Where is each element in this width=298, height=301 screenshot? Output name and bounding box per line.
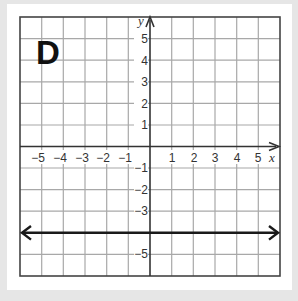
y-tick: 2 (141, 97, 148, 111)
panel-label: D (36, 34, 60, 71)
x-axis-label: x (268, 150, 275, 165)
x-tick: −2 (96, 151, 110, 165)
x-tick: 3 (212, 151, 219, 165)
y-tick: −3 (134, 204, 148, 218)
x-tick: 4 (234, 151, 241, 165)
y-tick: 1 (141, 118, 148, 132)
y-tick: 3 (141, 75, 148, 89)
x-tick: 1 (169, 151, 176, 165)
y-tick: −5 (134, 247, 148, 261)
x-tick: −5 (31, 151, 45, 165)
x-tick: −1 (118, 151, 132, 165)
x-tick: 5 (255, 151, 262, 165)
x-tick: 2 (191, 151, 198, 165)
coordinate-plane: D y x −5 −4 −3 −2 −1 1 2 3 4 5 5 4 3 2 1… (0, 0, 298, 301)
y-tick: 4 (141, 54, 148, 68)
y-tick: 5 (141, 32, 148, 46)
x-tick: −3 (75, 151, 89, 165)
y-tick: −2 (134, 183, 148, 197)
y-axis-label: y (136, 13, 144, 28)
y-tick: −1 (134, 161, 148, 175)
x-tick: −4 (53, 151, 67, 165)
